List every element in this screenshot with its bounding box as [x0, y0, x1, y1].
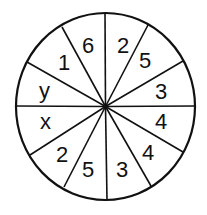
divider-line — [106, 106, 196, 107]
sector-label: 6 — [82, 33, 94, 58]
sector-label: x — [40, 109, 51, 134]
sector-label: 5 — [82, 157, 94, 182]
sector-label: 3 — [155, 79, 167, 104]
sector-label: 5 — [139, 48, 151, 73]
sector-label: 4 — [155, 109, 167, 134]
sector-label: y — [39, 78, 50, 103]
sector-label: 1 — [58, 50, 70, 75]
divider-line — [16, 106, 106, 107]
spinner-wheel: 2 5 3 4 4 3 5 2 x y 1 6 — [0, 0, 207, 215]
divider-line — [105, 13, 106, 107]
sector-label: 2 — [117, 33, 129, 58]
center-pivot — [103, 104, 108, 109]
sector-label: 2 — [56, 142, 68, 167]
sector-label: 4 — [142, 140, 154, 165]
sector-label: 3 — [116, 157, 128, 182]
